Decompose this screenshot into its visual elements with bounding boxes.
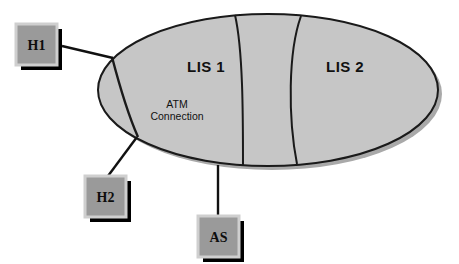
atm-connection-label-line1: ATM xyxy=(166,98,187,110)
diagram-svg: LIS 1 LIS 2 ATM Connection H1 H2 xyxy=(0,0,459,264)
node-as-label: AS xyxy=(210,230,228,245)
link-h2-to-cloud xyxy=(108,137,137,176)
region-label-lis1: LIS 1 xyxy=(187,58,225,75)
diagram-canvas: LIS 1 LIS 2 ATM Connection H1 H2 xyxy=(0,0,459,264)
atm-connection-label-line2: Connection xyxy=(150,110,203,122)
atm-network-cloud: LIS 1 LIS 2 ATM Connection xyxy=(98,14,442,170)
region-label-lis2: LIS 2 xyxy=(326,58,364,75)
node-h2[interactable]: H2 xyxy=(85,176,131,222)
node-h2-label: H2 xyxy=(97,190,115,205)
node-h1[interactable]: H1 xyxy=(16,24,62,70)
cloud-body xyxy=(98,14,438,166)
node-as[interactable]: AS xyxy=(198,216,244,262)
node-h1-label: H1 xyxy=(28,38,46,53)
link-h1-to-cloud xyxy=(62,46,113,58)
